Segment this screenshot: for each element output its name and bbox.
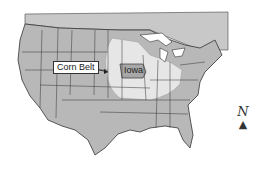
north-letter: N — [233, 105, 253, 119]
us-map — [0, 0, 258, 171]
north-arrow-icon: ▲ — [233, 119, 253, 131]
north-compass: N ▲ — [233, 105, 253, 131]
iowa-label: Iowa — [124, 65, 143, 75]
corn-belt-label: Corn Belt — [53, 61, 99, 74]
